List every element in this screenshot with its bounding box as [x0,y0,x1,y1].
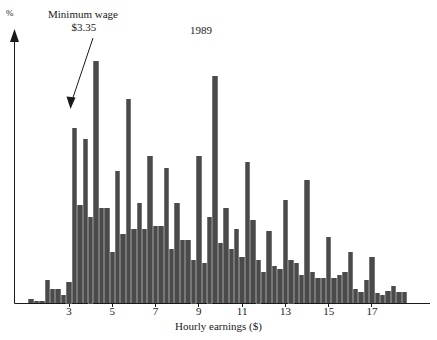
x-tick-mark [198,304,199,307]
x-tick-mark [242,304,243,307]
x-tick-mark [371,304,372,307]
histogram-bar [402,292,407,304]
x-tick-mark [328,304,329,307]
histogram-figure: % Minimum wage $3.35 1989 357911131517 H… [0,0,437,340]
x-tick-mark [285,304,286,307]
plot-area: 357911131517 [0,0,437,340]
x-tick-mark [155,304,156,307]
x-axis-title: Hourly earnings ($) [0,320,437,332]
x-tick-mark [69,304,70,307]
x-tick-mark [112,304,113,307]
